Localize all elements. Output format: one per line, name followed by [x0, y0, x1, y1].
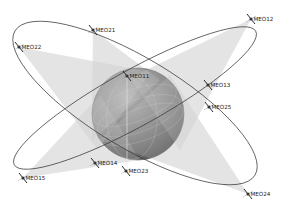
satellite-meo23: MEO23: [121, 166, 149, 176]
satellite-label: MEO23: [129, 168, 149, 174]
satellite-label: MEO24: [251, 191, 271, 197]
satellite-label: MEO14: [98, 160, 118, 166]
satellite-meo15: MEO15: [18, 173, 46, 183]
satellite-icon: [93, 161, 96, 164]
satellite-icon: [125, 74, 128, 77]
satellite-icon: [21, 176, 24, 179]
satellite-icon: [17, 45, 20, 48]
satellite-label: MEO25: [212, 104, 232, 110]
satellite-icon: [246, 192, 249, 195]
satellite-meo25: MEO25: [204, 102, 232, 112]
satellite-label: MEO11: [130, 73, 150, 79]
satellite-icon: [206, 83, 209, 86]
satellite-label: MEO15: [26, 175, 46, 181]
satellite-meo21: MEO21: [88, 25, 116, 35]
satellite-icon: [207, 105, 210, 108]
constellation-diagram: MEO22MEO21MEO12MEO11MEO13MEO25MEO14MEO23…: [0, 0, 286, 223]
satellite-label: MEO13: [211, 82, 231, 88]
satellite-label: MEO21: [96, 27, 116, 33]
satellite-icon: [249, 17, 252, 20]
satellite-meo12: MEO12: [246, 14, 273, 24]
satellite-icon: [91, 28, 94, 31]
satellite-icon: [124, 169, 127, 172]
satellite-label: MEO22: [22, 44, 42, 50]
satellite-label: MEO12: [254, 16, 274, 22]
satellite-meo24: MEO24: [243, 189, 271, 199]
